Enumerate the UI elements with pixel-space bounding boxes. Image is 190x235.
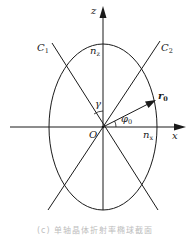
nz-label: nz [90,46,100,58]
x-axis-label: x [172,131,178,141]
phi0-label: φ0 [121,114,132,126]
origin-label: O [89,130,97,140]
origin-point [102,126,105,129]
phi0-angle-arc [115,121,116,127]
r0-arrow-icon [145,100,156,108]
gamma-label: γ [95,99,101,109]
c2-line [48,41,160,210]
c1-label: C1 [37,43,49,55]
z-axis-label: z [91,6,96,16]
c2-label: C2 [161,43,173,55]
r0-label: r0 [158,91,168,103]
nx-label: nx [143,130,153,142]
index-ellipse-diagram [0,0,190,235]
z-axis-arrow-icon [100,6,107,18]
figure-caption: (c) 单轴晶体折射率椭球截面 [0,224,190,235]
